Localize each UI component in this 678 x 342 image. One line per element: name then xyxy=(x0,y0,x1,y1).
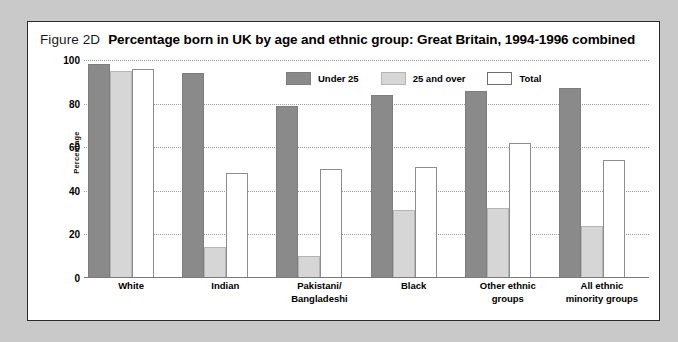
legend-label: Total xyxy=(519,73,541,84)
x-axis-category-label: Indian xyxy=(178,280,272,305)
bar-over25[interactable] xyxy=(581,226,603,278)
bar-total[interactable] xyxy=(132,69,154,278)
legend-label: 25 and over xyxy=(413,73,466,84)
legend-swatch-under25 xyxy=(286,72,311,85)
screenshot-root: Figure 2D Percentage born in UK by age a… xyxy=(0,0,678,342)
bar-group xyxy=(84,60,178,278)
bar-set xyxy=(555,60,649,278)
bar-group xyxy=(178,60,272,278)
bar-groups xyxy=(84,60,649,278)
bar-total[interactable] xyxy=(226,173,248,278)
chart-legend: Under 2525 and overTotal xyxy=(286,72,541,85)
bar-total[interactable] xyxy=(509,143,531,278)
bar-group xyxy=(367,60,461,278)
bar-set xyxy=(272,60,366,278)
legend-item[interactable]: Under 25 xyxy=(286,72,359,85)
x-axis-category-label: All ethnicminority groups xyxy=(555,280,649,305)
bar-set xyxy=(367,60,461,278)
x-axis-line xyxy=(84,277,649,278)
bar-group xyxy=(555,60,649,278)
bar-group xyxy=(272,60,366,278)
y-axis-tick-label: 100 xyxy=(46,55,80,66)
x-axis-category-label: Other ethnicgroups xyxy=(461,280,555,305)
bar-under25[interactable] xyxy=(182,73,204,278)
bar-over25[interactable] xyxy=(298,256,320,278)
y-axis-tick-label: 80 xyxy=(46,98,80,109)
bar-total[interactable] xyxy=(415,167,437,278)
bar-set xyxy=(84,60,178,278)
y-axis-tick-label: 20 xyxy=(46,229,80,240)
bar-group xyxy=(461,60,555,278)
legend-item[interactable]: Total xyxy=(487,72,541,85)
bar-under25[interactable] xyxy=(276,106,298,278)
legend-swatch-total xyxy=(487,72,512,85)
bar-over25[interactable] xyxy=(204,247,226,278)
bar-over25[interactable] xyxy=(110,71,132,278)
y-axis-tick-label: 0 xyxy=(46,273,80,284)
chart-plot-wrapper: Percentage 100806040200 WhiteIndianPakis… xyxy=(28,60,661,318)
legend-label: Under 25 xyxy=(318,73,359,84)
plot-area xyxy=(84,60,649,278)
legend-swatch-over25 xyxy=(381,72,406,85)
figure-number: Figure 2D xyxy=(40,32,100,47)
bar-total[interactable] xyxy=(320,169,342,278)
figure-frame: Figure 2D Percentage born in UK by age a… xyxy=(27,21,660,321)
bar-set xyxy=(461,60,555,278)
bar-over25[interactable] xyxy=(487,208,509,278)
y-axis-tick-label: 60 xyxy=(46,142,80,153)
x-axis-category-label: White xyxy=(84,280,178,305)
x-axis-labels: WhiteIndianPakistani/BangladeshiBlackOth… xyxy=(84,280,649,305)
y-axis-ticks: 100806040200 xyxy=(28,60,80,278)
bar-under25[interactable] xyxy=(88,64,110,278)
legend-item[interactable]: 25 and over xyxy=(381,72,466,85)
bar-under25[interactable] xyxy=(465,91,487,278)
x-axis-category-label: Black xyxy=(367,280,461,305)
bar-total[interactable] xyxy=(603,160,625,278)
x-axis-category-label: Pakistani/Bangladeshi xyxy=(272,280,366,305)
bar-over25[interactable] xyxy=(393,210,415,278)
bar-under25[interactable] xyxy=(371,95,393,278)
figure-title-row: Figure 2D Percentage born in UK by age a… xyxy=(40,32,651,54)
y-axis-tick-label: 40 xyxy=(46,185,80,196)
bar-set xyxy=(178,60,272,278)
page-title: Percentage born in UK by age and ethnic … xyxy=(108,32,635,47)
bar-under25[interactable] xyxy=(559,88,581,278)
